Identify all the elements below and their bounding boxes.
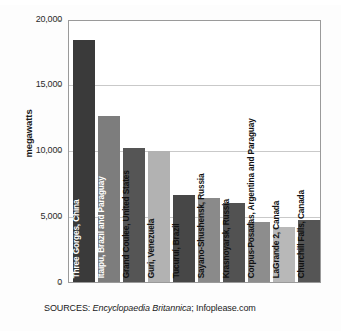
bar-lagrande-2: LaGrande 2, Canada [273,227,295,282]
bar-label-corpus-posadas: Corpus-Posadas, Argentina and Paraguay [246,118,254,278]
bar-churchill-falls: Churchill Falls, Canada [298,220,320,282]
bar-grand-coulee: Grand Coulee, United States [123,148,145,282]
sources-prefix: SOURCES: [44,303,93,313]
bar-sayano-shushensk: Sayano-Shushensk, Russia [198,198,220,282]
bar-label-three-gorges: Three Gorges, China [71,199,79,278]
bar-itaipu: Itaipu, Brazil and Paraguay [98,116,120,282]
source-infoplease: ; Infoplease.com [191,303,255,313]
y-tick-mark-10000 [58,151,62,152]
y-tick-label-5000: 5,000 [6,211,62,221]
y-tick-mark-5000 [58,217,62,218]
y-tick-mark-0 [58,283,62,284]
bar-label-tucurui: Tucuruí, Brazil [171,223,179,278]
bars-layer: Three Gorges, China Itaipu, Brazil and P… [69,21,320,282]
y-axis-ticks: 20,000 15,000 10,000 5,000 0 [0,0,62,331]
y-tick-label-0: 0 [6,277,62,287]
source-britannica: Encyclopaedia Britannica [93,303,192,313]
sources-footer: SOURCES: Encyclopaedia Britannica; Infop… [44,303,256,313]
bar-corpus-posadas: Corpus-Posadas, Argentina and Paraguay [248,222,270,282]
plot-area: Three Gorges, China Itaipu, Brazil and P… [68,20,321,283]
bar-label-churchill-falls: Churchill Falls, Canada [296,190,304,278]
y-tick-mark-20000 [58,20,62,21]
bar-label-itaipu: Itaipu, Brazil and Paraguay [96,176,104,278]
bar-label-krasnoyarsk: Krasnoyarsk, Russia [221,199,229,278]
chart-container: megawatts 20,000 15,000 10,000 5,000 0 T… [0,0,341,331]
bar-guri: Guri, Venezuela [148,151,170,283]
bar-tucurui: Tucuruí, Brazil [173,195,195,282]
bar-three-gorges: Three Gorges, China [73,40,95,282]
y-tick-mark-15000 [58,85,62,86]
bar-label-sayano-shushensk: Sayano-Shushensk, Russia [196,173,204,278]
y-tick-label-20000: 20,000 [6,14,62,24]
top-clip [0,0,341,5]
bar-label-grand-coulee: Grand Coulee, United States [121,170,129,278]
y-tick-label-15000: 15,000 [6,79,62,89]
bar-label-guri: Guri, Venezuela [146,218,154,278]
bar-label-lagrande-2: LaGrande 2, Canada [271,200,279,278]
y-tick-label-10000: 10,000 [6,145,62,155]
bar-krasnoyarsk: Krasnoyarsk, Russia [223,203,245,282]
